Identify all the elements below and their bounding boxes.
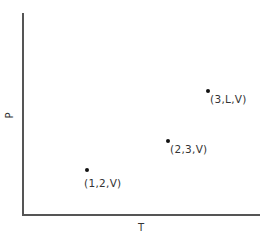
point-label-1-2-v: (1,2,V) xyxy=(84,177,122,189)
x-axis-label: T xyxy=(138,222,144,233)
point-label-3-l-v: (3,L,V) xyxy=(210,93,247,105)
x-axis xyxy=(22,214,260,216)
y-axis xyxy=(22,13,24,215)
point-1-2-v xyxy=(85,168,89,172)
point-label-2-3-v: (2,3,V) xyxy=(170,143,208,155)
y-axis-label: P xyxy=(4,110,15,122)
p-t-diagram: P T (1,2,V) (2,3,V) (3,L,V) xyxy=(0,0,269,236)
